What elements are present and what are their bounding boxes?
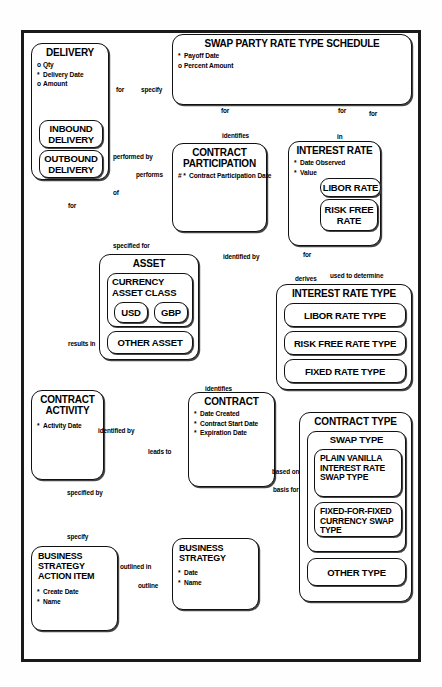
attribute-label: Create Date	[43, 588, 79, 595]
subtype-fixed-rate-type[interactable]: FIXED RATE TYPE	[284, 359, 406, 383]
attribute-label: Name	[43, 598, 61, 605]
subtype-gbp[interactable]: GBP	[154, 302, 188, 323]
subtype-currency-asset-class[interactable]: CURRENCY ASSET CLASS USD GBP	[107, 273, 193, 327]
attribute-row: oPercent Amount	[178, 61, 411, 71]
entity-interest-rate[interactable]: INTEREST RATE *Date Observed *Value LIBO…	[288, 141, 381, 246]
attribute-row: *Delivery Date	[37, 70, 108, 80]
attribute-row: *Payoff Date	[178, 51, 411, 61]
entity-delivery-title: DELIVERY	[32, 44, 108, 58]
attribute-row: *Date Created	[194, 409, 274, 419]
entity-swap-party-rate-type-schedule[interactable]: SWAP PARTY RATE TYPE SCHEDULE *Payoff Da…	[172, 34, 412, 105]
entity-contract-activity[interactable]: CONTRACT ACTIVITY *Activity Date	[31, 390, 104, 480]
subtype-libor-rate[interactable]: LIBOR RATE	[320, 178, 381, 197]
subtype-inbound-delivery[interactable]: INBOUND DELIVERY	[39, 120, 103, 148]
attribute-row: oAmount	[37, 79, 108, 89]
rlabel-rate-type-derives: derives	[295, 275, 317, 282]
rlabel-schedule-for-participation: for	[221, 107, 229, 114]
entity-swap-party-rate-type-schedule-title: SWAP PARTY RATE TYPE SCHEDULE	[173, 35, 411, 49]
attribute-label: Contract Start Date	[200, 420, 258, 427]
subtype-risk-free-rate[interactable]: RISK FREE RATE	[320, 199, 378, 231]
attribute-mark: # *	[178, 171, 189, 181]
subtype-swap-type-label: SWAP TYPE	[308, 434, 405, 445]
rlabel-rate-type-used-to-determine: used to determine	[330, 272, 383, 279]
entity-delivery-attributes: oQty *Delivery Date oAmount	[32, 58, 108, 89]
rlabel-activity-specified-by: specified by	[67, 489, 103, 496]
rlabel-delivery-performed-by: performed by	[113, 153, 153, 160]
entity-contract-attributes: *Date Created *Contract Start Date *Expi…	[189, 407, 274, 438]
subtype-plain-vanilla-interest-rate-swap-type[interactable]: PLAIN VANILLA INTEREST RATE SWAP TYPE	[314, 449, 402, 497]
rlabel-interest-rate-in: in	[337, 133, 342, 140]
subtype-risk-free-rate-type[interactable]: RISK FREE RATE TYPE	[284, 331, 406, 355]
attribute-label: Name	[184, 579, 202, 586]
attribute-row: *Value	[294, 168, 380, 178]
attribute-label: Contract Participation Date	[189, 172, 271, 179]
rlabel-activity-results-in: results in	[68, 340, 95, 347]
entity-asset-title: ASSET	[100, 255, 198, 269]
entity-delivery[interactable]: DELIVERY oQty *Delivery Date oAmount INB…	[31, 43, 109, 180]
subtype-usd[interactable]: USD	[114, 302, 148, 323]
attribute-label: Activity Date	[43, 422, 82, 429]
entity-contract[interactable]: CONTRACT *Date Created *Contract Start D…	[188, 392, 275, 487]
rlabel-action-item-outlined-in: outlined in	[120, 563, 151, 570]
entity-interest-rate-type-title: INTEREST RATE TYPE	[277, 285, 411, 299]
rlabel-participation-identifies: identifies	[222, 132, 249, 139]
attribute-label: Expiration Date	[200, 429, 247, 436]
attribute-label: Date	[184, 569, 198, 576]
entity-contract-participation[interactable]: CONTRACT PARTICIPATION # *Contract Parti…	[172, 143, 267, 232]
rlabel-contract-leads-to: leads to	[148, 448, 171, 455]
entity-interest-rate-title: INTEREST RATE	[289, 142, 380, 156]
entity-interest-rate-type[interactable]: INTEREST RATE TYPE LIBOR RATE TYPE RISK …	[276, 284, 412, 390]
attribute-label: Payoff Date	[184, 52, 219, 59]
attribute-row: *Date Observed	[294, 158, 380, 168]
entity-business-strategy-action-item-title: BUSINESS STRATEGY ACTION ITEM	[32, 547, 117, 581]
attribute-label: Value	[300, 169, 317, 176]
rlabel-contract-type-basis-for: basis for	[273, 486, 299, 493]
entity-business-strategy-action-item-attributes: *Create Date *Name	[32, 581, 117, 606]
subtype-outbound-delivery[interactable]: OUTBOUND DELIVERY	[39, 150, 103, 178]
rlabel-schedule-for-interest-rate-type: for	[369, 110, 377, 117]
subtype-currency-asset-class-label: CURRENCY ASSET CLASS	[108, 276, 192, 298]
entity-asset[interactable]: ASSET CURRENCY ASSET CLASS USD GBP OTHER…	[99, 254, 199, 360]
entity-contract-type[interactable]: CONTRACT TYPE SWAP TYPE PLAIN VANILLA IN…	[299, 412, 412, 602]
subtype-other-type[interactable]: OTHER TYPE	[307, 558, 406, 586]
entity-contract-title: CONTRACT	[189, 393, 274, 407]
rlabel-delivery-for: for	[116, 86, 124, 93]
attribute-row: oQty	[37, 60, 108, 70]
entity-contract-participation-title: CONTRACT PARTICIPATION	[173, 144, 266, 169]
attribute-label: Date Observed	[300, 159, 345, 166]
rlabel-activity-identified-by: identified by	[98, 427, 134, 434]
erd-canvas: DELIVERY oQty *Delivery Date oAmount INB…	[0, 0, 442, 687]
entity-swap-party-rate-type-schedule-attributes: *Payoff Date oPercent Amount	[173, 49, 411, 70]
subtype-swap-type[interactable]: SWAP TYPE PLAIN VANILLA INTEREST RATE SW…	[307, 431, 406, 552]
rlabel-schedule-for-interest-rate: for	[338, 107, 346, 114]
entity-business-strategy[interactable]: BUSINESS STRATEGY *Date *Name	[172, 538, 259, 610]
rlabel-asset-specified-for: specified for	[113, 242, 150, 249]
subtype-libor-rate-type[interactable]: LIBOR RATE TYPE	[284, 303, 406, 327]
rlabel-contract-based-on: based on	[272, 468, 299, 475]
entity-business-strategy-title: BUSINESS STRATEGY	[173, 539, 258, 563]
rlabel-asset-identified-by: identified by	[223, 253, 259, 260]
rlabel-interest-rate-for: for	[303, 251, 311, 258]
rlabel-delivery-for-activity: for	[68, 202, 76, 209]
rlabel-delivery-of: of	[113, 189, 119, 196]
attribute-row: *Activity Date	[37, 421, 103, 431]
entity-contract-participation-attributes: # *Contract Participation Date	[173, 169, 266, 181]
subtype-fixed-for-fixed-currency-swap-type[interactable]: FIXED-FOR-FIXED CURRENCY SWAP TYPE	[314, 502, 402, 537]
subtype-other-asset[interactable]: OTHER ASSET	[107, 331, 193, 354]
entity-business-strategy-action-item[interactable]: BUSINESS STRATEGY ACTION ITEM *Create Da…	[31, 546, 118, 631]
attribute-row: # *Contract Participation Date	[178, 171, 266, 181]
attribute-row: *Name	[178, 578, 258, 588]
attribute-row: *Create Date	[37, 587, 117, 597]
attribute-row: *Name	[37, 597, 117, 607]
entity-interest-rate-attributes: *Date Observed *Value	[289, 156, 380, 177]
attribute-label: Percent Amount	[184, 62, 233, 69]
attribute-label: Delivery Date	[43, 71, 83, 78]
rlabel-participation-performs: performs	[136, 171, 163, 178]
rlabel-contract-identifies: identifies	[205, 385, 232, 392]
attribute-row: *Expiration Date	[194, 428, 274, 438]
entity-contract-type-title: CONTRACT TYPE	[300, 413, 411, 427]
entity-contract-activity-attributes: *Activity Date	[32, 416, 103, 431]
attribute-label: Date Created	[200, 410, 239, 417]
rlabel-schedule-specify: specify	[141, 86, 162, 93]
attribute-label: Amount	[43, 80, 67, 87]
